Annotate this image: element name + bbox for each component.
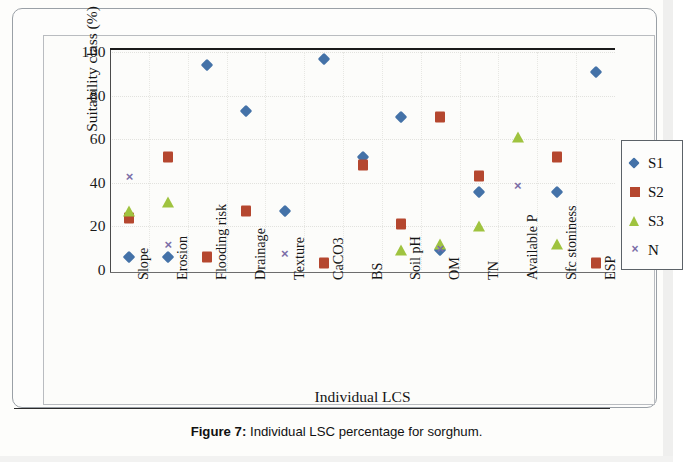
y-axis-tick: 0 <box>98 261 106 279</box>
x-axis-tick: Slope <box>135 248 152 280</box>
data-point-s3 <box>512 132 524 143</box>
y-axis-tick: 40 <box>90 174 106 192</box>
legend-label: N <box>648 243 659 257</box>
x-axis-tick: BS <box>369 263 386 280</box>
data-point-n: × <box>279 247 290 258</box>
x-axis-tick: TN <box>485 261 502 280</box>
data-point-s2 <box>319 258 329 269</box>
legend-label: S1 <box>648 156 664 170</box>
legend-marker-triangle-icon <box>628 214 643 228</box>
x-axis-tick: Texture <box>291 237 308 280</box>
gridline-vertical <box>498 52 499 270</box>
legend-label: S3 <box>648 214 664 228</box>
y-axis-tick: 80 <box>90 87 106 105</box>
gridline-vertical <box>382 52 383 270</box>
data-point-s3 <box>123 206 135 217</box>
chart-top-rule <box>110 48 615 50</box>
legend-item-s1: S1 <box>628 148 682 177</box>
y-axis-tick: 100 <box>82 43 106 61</box>
x-axis-tick: Soil pH <box>407 236 424 280</box>
legend-item-s3: S3 <box>628 206 682 235</box>
figure-caption: Figure 7: Individual LSC percentage for … <box>0 424 673 439</box>
x-axis-tick: OM <box>446 257 463 280</box>
chart-legend: S1S2S3×N <box>621 140 683 270</box>
x-axis-tick: Flooding risk <box>213 204 230 280</box>
x-axis-tick: Sfc stoniness <box>563 206 580 280</box>
x-axis-tick: Available P <box>524 214 541 280</box>
data-point-s3 <box>395 245 407 256</box>
caption-divider <box>14 408 610 409</box>
y-axis-tick: 20 <box>90 217 106 235</box>
data-point-s2 <box>163 151 173 162</box>
x-axis-tick: CaCO3 <box>330 237 347 280</box>
gridline-horizontal <box>110 96 615 97</box>
y-axis-line <box>110 50 111 272</box>
chart-frame: Suitability class (%) 020406080100 ×××××… <box>43 35 655 405</box>
y-axis-tick: 60 <box>90 130 106 148</box>
data-point-s2 <box>396 219 406 230</box>
data-point-s2 <box>202 251 212 262</box>
figure-caption-text: Individual LSC percentage for sorghum. <box>246 424 482 439</box>
gridline-horizontal <box>110 139 615 140</box>
data-point-s2 <box>435 112 445 123</box>
data-point-s3 <box>162 197 174 208</box>
data-point-s3 <box>473 221 485 232</box>
page-bottom-edge <box>0 456 673 462</box>
x-axis-title: Individual LCS <box>110 388 615 406</box>
figure-caption-label: Figure 7: <box>191 424 247 439</box>
gridline-vertical <box>460 52 461 270</box>
data-point-s3 <box>551 238 563 249</box>
data-point-s2 <box>241 206 251 217</box>
data-point-s2 <box>474 171 484 182</box>
legend-marker-diamond-icon <box>628 156 643 170</box>
y-axis-tick-labels: 020406080100 <box>50 36 106 272</box>
gridline-horizontal <box>110 52 615 53</box>
data-point-s2 <box>358 160 368 171</box>
data-point-n: × <box>512 179 523 190</box>
legend-item-s2: S2 <box>628 177 682 206</box>
x-axis-tick: ESP <box>602 256 619 280</box>
gridline-vertical <box>149 52 150 270</box>
legend-item-n: ×N <box>628 235 682 264</box>
legend-label: S2 <box>648 185 664 199</box>
x-axis-tick: Drainage <box>252 228 269 280</box>
data-point-n: × <box>124 171 135 182</box>
data-point-s2 <box>552 151 562 162</box>
data-point-s2 <box>591 258 601 269</box>
data-point-n: × <box>163 238 174 249</box>
x-axis-tick: Erosion <box>174 236 191 280</box>
data-point-n: × <box>435 243 446 254</box>
legend-marker-cross-icon: × <box>628 243 643 257</box>
gridline-horizontal <box>110 183 615 184</box>
legend-marker-square-icon <box>628 185 643 199</box>
figure-outer-frame: Suitability class (%) 020406080100 ×××××… <box>12 8 657 408</box>
